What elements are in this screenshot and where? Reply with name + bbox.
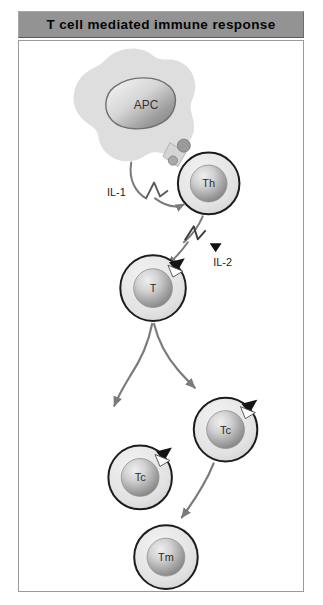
tc-left-label: Tc xyxy=(135,471,146,483)
diagram-frame: APC Th IL-1 xyxy=(18,40,304,592)
branch-arrow-right xyxy=(154,324,195,388)
il1-arrow-head-path xyxy=(155,198,184,206)
il1-zigzag xyxy=(146,182,168,198)
proliferation-branch-arrows xyxy=(114,324,194,406)
cell-tc-right: Tc xyxy=(194,398,258,462)
il1-label: IL-1 xyxy=(107,186,126,198)
differentiation-arrow xyxy=(182,463,214,517)
figure-root: T cell mediated immune response xyxy=(0,0,323,605)
il2-marker-triangle xyxy=(210,243,222,252)
cell-tc-left: Tc xyxy=(108,446,172,510)
tc-to-tm-arrow xyxy=(182,463,214,517)
tc-right-label: Tc xyxy=(220,424,231,436)
cell-t: T xyxy=(120,255,186,321)
cell-tm: Tm xyxy=(134,525,198,589)
signal-il1: IL-1 xyxy=(107,163,184,207)
branch-arrow-left xyxy=(114,324,152,406)
cell-th: Th xyxy=(178,153,240,215)
page-title: T cell mediated immune response xyxy=(46,17,275,32)
il2-label: IL-2 xyxy=(213,256,232,268)
antigen-particle-small xyxy=(168,156,177,165)
tm-label: Tm xyxy=(158,551,174,563)
il1-arrow-tail xyxy=(131,163,147,199)
figure-header-bar: T cell mediated immune response xyxy=(18,11,304,38)
antigen-particle xyxy=(177,139,190,152)
immune-response-diagram: APC Th IL-1 xyxy=(19,41,303,591)
apc-label: APC xyxy=(134,98,159,112)
th-label: Th xyxy=(202,177,215,189)
t-label: T xyxy=(150,282,157,294)
